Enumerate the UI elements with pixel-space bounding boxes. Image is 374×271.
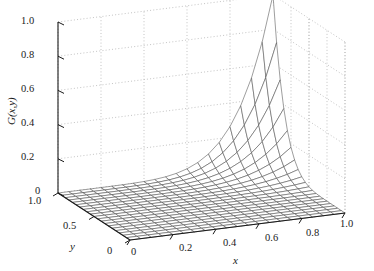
y-tick-label: 0 [107,246,112,257]
x-tick-label: 0.8 [306,228,319,239]
z-tick-label: 0.4 [21,118,34,129]
z-axis-label: G(x,y) [6,97,17,125]
x-tick-label: 1.0 [340,219,353,230]
x-axis-label: x [233,255,238,266]
x-tick-label: 0.4 [223,238,236,249]
z-tick-label: 0.2 [21,152,34,163]
x-tick-label: 0 [131,247,136,258]
z-tick-label: 0.6 [21,84,34,95]
z-tick-label: 1.0 [21,16,34,27]
x-tick-label: 0.6 [265,233,278,244]
x-tick-label: 0.2 [179,243,192,254]
y-tick-label: 1.0 [28,196,41,207]
y-tick-label: 0.5 [63,221,76,232]
surface-plot-figure: 1.0 0.8 0.6 0.4 0.2 0 G(x,y) 1.0 0.5 0 y… [0,0,374,271]
z-tick-label: 0.8 [21,50,34,61]
y-axis-label: y [70,241,75,252]
